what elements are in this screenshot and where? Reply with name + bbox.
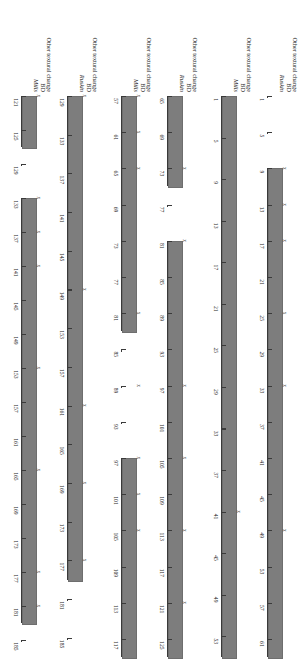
axis-tick-label: 73 [113,243,119,249]
axis-tick [67,173,72,174]
axis-tick-label: 185 [59,640,65,648]
axis-tick [21,402,26,403]
axis-tick-label: 97 [113,460,119,466]
axis-tick-label: 137 [59,176,65,184]
x-marker-icon: x [136,384,141,387]
axis-tick [67,367,72,368]
axis-tick-label: 97 [159,388,165,394]
axis-tick-label: 21 [259,279,265,285]
axis-tick [267,494,272,495]
axis: 15913172125293337414549535761xxxxxx [256,0,298,661]
x-marker-icon: x [82,559,87,562]
bar [268,168,283,659]
axis-tick [221,512,226,513]
row-mills-2: Other textural changeBDMills576165697377… [110,0,152,661]
axis-tick-label: 77 [159,207,165,213]
axis-tick [67,444,72,445]
axis-tick [21,266,26,267]
axis-tick [21,436,26,437]
axis-tick [67,96,72,97]
axis-tick-label: 153 [13,370,19,378]
axis-tick [67,212,72,213]
axis-tick-label: 57 [259,605,265,611]
axis-tick [267,96,272,97]
figure-inner: Other textural changeBDRuskin15913172125… [0,0,304,661]
axis-tick [67,483,72,484]
axis: 656973778185899397101105109113117121125x… [156,0,198,661]
axis-tick-label: 17 [259,243,265,249]
axis-tick-label: 29 [259,352,265,358]
axis-tick-label: 153 [59,330,65,338]
bar [222,96,237,659]
axis-tick [121,639,126,640]
axis-tick [267,349,272,350]
axis-tick-label: 145 [13,302,19,310]
axis-tick-label: 45 [259,496,265,502]
x-marker-icon: x [36,571,41,574]
axis-tick-label: 169 [13,506,19,514]
axis-tick [267,313,272,314]
axis-tick-label: 161 [13,438,19,446]
x-marker-icon: x [182,167,187,170]
axis-tick [267,386,272,387]
axis-tick [121,494,126,495]
axis-tick-label: 1 [259,98,265,101]
axis-tick-label: 9 [259,171,265,174]
axis-tick-label: 61 [259,641,265,647]
axis-tick [21,640,26,641]
axis-tick [121,603,126,604]
axis-tick [121,567,126,568]
axis-tick-label: 5 [213,140,219,143]
axis-tick [167,168,172,169]
axis-tick-label: 133 [13,200,19,208]
x-marker-icon: x [282,167,287,170]
axis-tick-label: 1 [213,98,219,101]
axis-tick [267,422,272,423]
axis-tick [221,138,226,139]
x-marker-icon: x [182,457,187,460]
row-ruskin-1: Other textural changeBDRuskin15913172125… [256,0,298,661]
axis-tick-label: 149 [13,336,19,344]
axis-tick [167,277,172,278]
axis-tick [221,387,226,388]
axis-tick [221,470,226,471]
axis-tick-label: 141 [59,214,65,222]
axis-tick-label: 181 [13,608,19,616]
x-marker-icon: x [236,510,241,513]
x-marker-icon: x [182,239,187,242]
x-marker-icon: x [182,529,187,532]
axis-tick-label: 109 [113,569,119,577]
axis-tick [221,595,226,596]
axis-tick-label: 101 [159,424,165,432]
x-marker-icon: x [36,469,41,472]
axis-tick-label: 37 [213,472,219,478]
x-marker-icon: x [282,203,287,206]
x-marker-icon: x [282,529,287,532]
axis-tick-label: 113 [159,533,165,541]
axis-tick-label: 89 [159,315,165,321]
axis-tick [21,198,26,199]
axis-tick-label: 137 [13,234,19,242]
axis-tick [167,313,172,314]
axis-tick [121,241,126,242]
axis-tick-label: 61 [113,134,119,140]
axis-tick [167,639,172,640]
axis-tick-label: 89 [113,388,119,394]
axis-tick [167,349,172,350]
bar [168,241,183,659]
axis-tick-label: 177 [59,562,65,570]
axis-tick-label: 173 [59,524,65,532]
axis-tick-label: 165 [59,446,65,454]
axis-tick-label: 185 [13,642,19,650]
x-marker-icon: x [36,231,41,234]
axis-tick-label: 77 [113,279,119,285]
axis-tick-label: 49 [213,597,219,603]
axis: 1591317212529333741454953x [210,0,252,661]
axis-tick [267,639,272,640]
axis-tick [21,606,26,607]
axis-tick [167,422,172,423]
x-marker-icon: x [136,529,141,532]
axis-tick-label: 69 [113,207,119,213]
bar [22,96,37,149]
axis-tick [67,560,72,561]
